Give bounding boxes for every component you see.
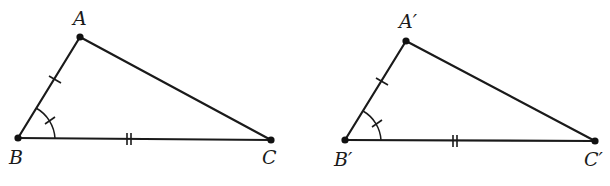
congruent-triangles-diagram: A B C A′ B′ C′	[0, 0, 610, 186]
label-b: B	[8, 146, 23, 168]
triangle-abc: A B C	[8, 7, 277, 168]
label-a-prime: A′	[397, 10, 418, 32]
label-b-prime: B′	[333, 148, 353, 170]
side-b-prime-c-prime	[345, 140, 595, 141]
label-c: C	[262, 146, 277, 168]
vertex-b-prime	[341, 136, 348, 143]
side-ab	[18, 37, 80, 138]
vertex-a	[76, 33, 83, 40]
label-c-prime: C′	[584, 148, 604, 170]
side-bc	[18, 138, 271, 140]
vertex-c	[267, 136, 274, 143]
triangle-a-prime-b-prime-c-prime: A′ B′ C′	[333, 10, 604, 170]
side-a-prime-c-prime	[406, 41, 595, 141]
label-a: A	[71, 7, 87, 29]
vertex-c-prime	[591, 137, 598, 144]
vertex-a-prime	[402, 37, 409, 44]
angle-arc-b-prime	[363, 111, 381, 140]
side-ac	[80, 37, 271, 140]
vertex-b	[14, 134, 21, 141]
